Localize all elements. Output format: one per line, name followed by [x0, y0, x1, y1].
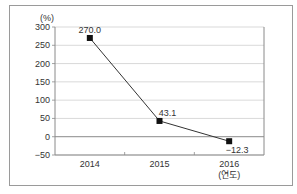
- x-axis-unit-label: (연도): [218, 170, 240, 180]
- line-chart: 300250200150100500−50 201420152016(연도) 2…: [0, 0, 297, 194]
- y-axis-unit-label: (%): [40, 13, 54, 23]
- gridlines: [52, 27, 264, 155]
- y-tick-label: −50: [35, 150, 50, 160]
- y-tick-label: 250: [35, 40, 50, 50]
- y-tick-label: 150: [35, 77, 50, 87]
- series-line: 270.043.1−12.3: [79, 25, 249, 155]
- data-label: 270.0: [79, 25, 102, 35]
- data-line: [90, 38, 229, 141]
- data-point-marker: [226, 138, 232, 144]
- x-tick-label: 2015: [149, 159, 169, 169]
- y-tick-label: 0: [45, 132, 50, 142]
- y-tick-label: 300: [35, 22, 50, 32]
- x-tick-label: 2014: [80, 159, 100, 169]
- data-label: 43.1: [159, 108, 177, 118]
- data-point-marker: [87, 35, 93, 41]
- data-point-marker: [157, 118, 163, 124]
- y-tick-label: 200: [35, 59, 50, 69]
- x-tick-label: 2016: [219, 159, 239, 169]
- y-tick-label: 50: [40, 113, 50, 123]
- data-label: −12.3: [226, 145, 249, 155]
- y-axis-ticks: 300250200150100500−50: [35, 22, 50, 160]
- y-tick-label: 100: [35, 95, 50, 105]
- x-axis-ticks: 201420152016(연도): [80, 159, 240, 180]
